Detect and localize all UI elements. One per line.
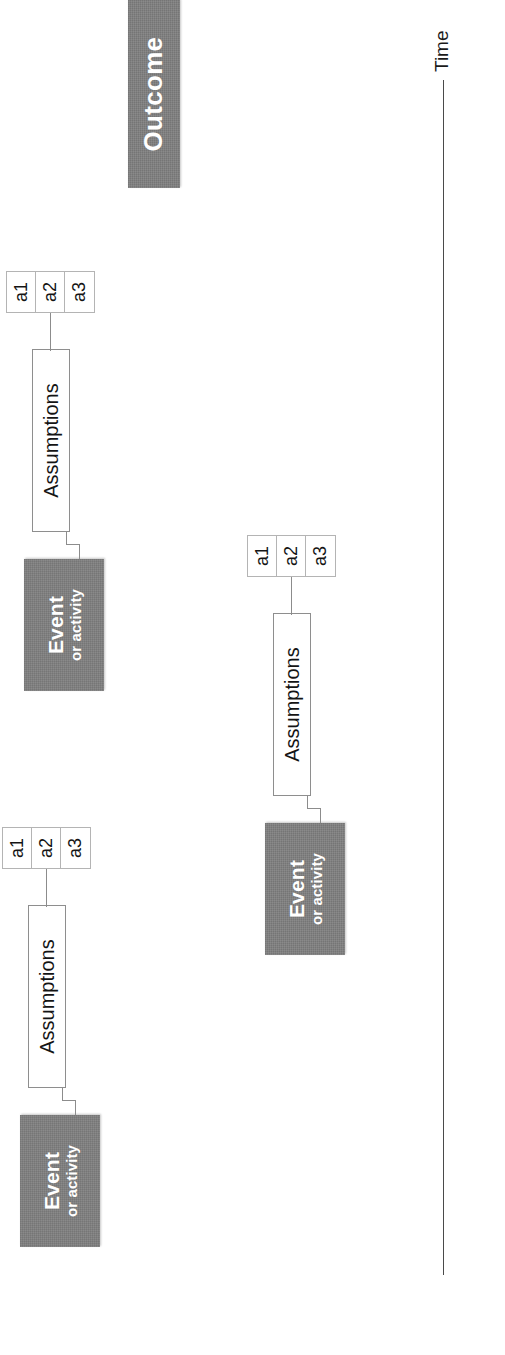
connector-assumptions-2-to-items bbox=[291, 577, 292, 615]
connector-assumptions-3-to-items bbox=[50, 313, 51, 351]
item-box-3-a3-label: a3 bbox=[69, 282, 90, 302]
event-box-2[interactable]: Event or activity bbox=[265, 823, 345, 955]
event-box-3-subtitle: or activity bbox=[68, 589, 84, 661]
time-axis-label: Time bbox=[431, 30, 453, 72]
event-box-3[interactable]: Event or activity bbox=[24, 559, 104, 691]
event-box-1-title: Event bbox=[41, 1152, 63, 1210]
item-box-1-a3-label: a3 bbox=[65, 838, 86, 858]
item-box-3-a3[interactable]: a3 bbox=[64, 271, 95, 313]
outcome-box[interactable]: Outcome bbox=[128, 0, 180, 188]
item-box-3-a2-label: a2 bbox=[40, 282, 61, 302]
event-box-1-subtitle: or activity bbox=[64, 1145, 80, 1217]
item-box-1-a2-label: a2 bbox=[36, 838, 57, 858]
item-box-3-a2[interactable]: a2 bbox=[35, 271, 66, 313]
assumptions-box-1[interactable]: Assumptions bbox=[28, 905, 66, 1088]
item-box-1-a2[interactable]: a2 bbox=[31, 827, 62, 869]
event-box-3-title: Event bbox=[45, 596, 67, 654]
item-box-1-a1[interactable]: a1 bbox=[2, 827, 33, 869]
diagram-stage: Event or activity Assumptions a1 a2 a3 E… bbox=[0, 0, 505, 1355]
event-box-2-title: Event bbox=[286, 860, 308, 918]
assumptions-box-3[interactable]: Assumptions bbox=[32, 349, 70, 532]
item-box-2-a3-label: a3 bbox=[310, 546, 331, 566]
event-box-2-subtitle: or activity bbox=[309, 853, 325, 925]
outcome-box-label: Outcome bbox=[140, 37, 167, 152]
item-box-2-a2[interactable]: a2 bbox=[276, 535, 307, 577]
assumptions-box-2[interactable]: Assumptions bbox=[273, 613, 311, 796]
assumptions-box-3-label: Assumptions bbox=[40, 383, 63, 498]
item-box-2-a3[interactable]: a3 bbox=[305, 535, 336, 577]
connector-event-2-to-assumptions bbox=[305, 795, 321, 823]
event-box-1[interactable]: Event or activity bbox=[20, 1115, 100, 1247]
diagram-canvas: Event or activity Assumptions a1 a2 a3 E… bbox=[0, 0, 505, 1355]
item-box-1-a3[interactable]: a3 bbox=[60, 827, 91, 869]
connector-event-3-to-assumptions bbox=[64, 531, 80, 559]
item-box-2-a1[interactable]: a1 bbox=[247, 535, 278, 577]
item-box-3-a1[interactable]: a1 bbox=[6, 271, 37, 313]
item-box-1-a1-label: a1 bbox=[7, 838, 28, 858]
assumptions-box-1-label: Assumptions bbox=[36, 939, 59, 1054]
time-axis-line bbox=[443, 80, 444, 1275]
connector-assumptions-1-to-items bbox=[46, 869, 47, 907]
assumptions-box-2-label: Assumptions bbox=[281, 647, 304, 762]
item-box-3-a1-label: a1 bbox=[11, 282, 32, 302]
item-box-2-a2-label: a2 bbox=[281, 546, 302, 566]
item-box-2-a1-label: a1 bbox=[252, 546, 273, 566]
connector-event-1-to-assumptions bbox=[60, 1087, 76, 1115]
